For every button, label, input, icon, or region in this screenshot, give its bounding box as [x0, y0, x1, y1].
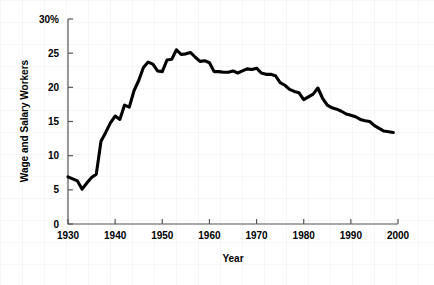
data-series-group — [68, 50, 393, 189]
x-tick-label: 1970 — [245, 230, 268, 241]
y-tick-label: 15 — [48, 116, 60, 127]
x-tick-label: 1980 — [293, 230, 316, 241]
x-tick-label: 1950 — [151, 230, 174, 241]
x-tick-label: 1990 — [340, 230, 363, 241]
y-axis-title: Wage and Salary Workers — [19, 59, 30, 182]
y-tick-label: 10 — [48, 150, 60, 161]
x-tick-labels: 19301940195019601970198019902000 — [57, 230, 410, 241]
x-axis-title: Year — [222, 253, 243, 264]
x-tick-label: 1940 — [104, 230, 127, 241]
y-tick-label: 5 — [53, 184, 59, 195]
y-tick-label: 25 — [48, 48, 60, 59]
line-chart: 19301940195019601970198019902000 0510152… — [0, 0, 434, 285]
axes-group — [68, 19, 398, 224]
y-tick-label: 20 — [48, 82, 60, 93]
y-tick-label: 0 — [53, 219, 59, 230]
data-line-wage-and-salary-workers — [68, 50, 393, 189]
y-tick-marks — [68, 19, 73, 224]
axis-lines — [68, 19, 398, 224]
y-tick-labels: 051015202530% — [39, 14, 59, 230]
x-tick-label: 1930 — [57, 230, 80, 241]
x-tick-label: 2000 — [387, 230, 410, 241]
y-tick-label: 30% — [39, 14, 59, 25]
x-tick-marks — [68, 219, 398, 224]
chart-container: 19301940195019601970198019902000 0510152… — [0, 0, 434, 285]
x-tick-label: 1960 — [198, 230, 221, 241]
